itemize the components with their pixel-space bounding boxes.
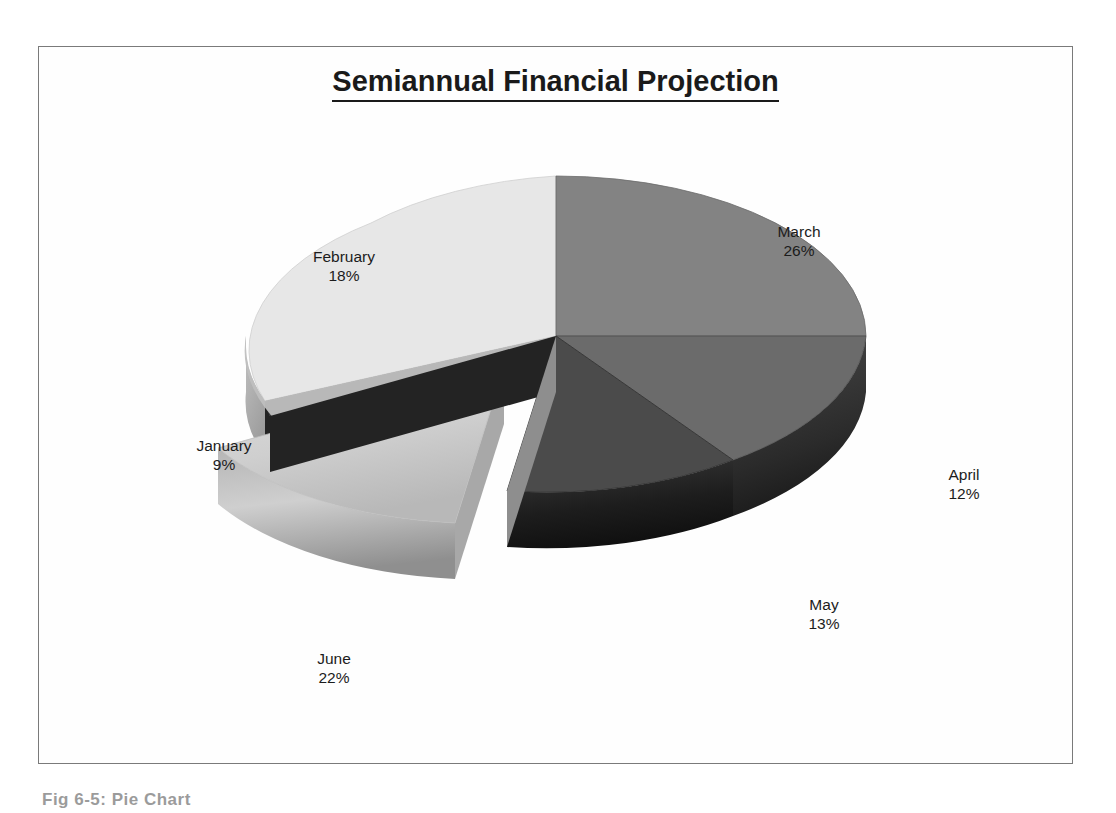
pie-label-march-value: 26% <box>744 241 854 260</box>
pie-label-may: May 13% <box>779 595 869 633</box>
pie-chart-svg <box>39 47 1074 765</box>
pie-label-may-value: 13% <box>779 614 869 633</box>
pie-label-february-name: February <box>284 247 404 266</box>
pie-label-june-name: June <box>289 649 379 668</box>
page-caption: Fig 6-5: Pie Chart <box>42 790 442 813</box>
pie-label-april: April 12% <box>919 465 1009 503</box>
pie-label-march-name: March <box>744 222 854 241</box>
pie-label-february-value: 18% <box>284 266 404 285</box>
pie-label-april-name: April <box>919 465 1009 484</box>
pie-label-june-value: 22% <box>289 668 379 687</box>
scanned-page: Semiannual Financial Projection <box>0 0 1116 813</box>
pie-label-january: January 9% <box>169 436 279 474</box>
pie-label-april-value: 12% <box>919 484 1009 503</box>
pie-label-january-value: 9% <box>169 455 279 474</box>
pie-label-march: March 26% <box>744 222 854 260</box>
pie-chart: March 26% April 12% May 13% June 22% Jan… <box>39 47 1074 765</box>
pie-label-may-name: May <box>779 595 869 614</box>
pie-label-june: June 22% <box>289 649 379 687</box>
pie-label-january-name: January <box>169 436 279 455</box>
pie-label-february: February 18% <box>284 247 404 285</box>
chart-frame: Semiannual Financial Projection <box>38 46 1073 764</box>
